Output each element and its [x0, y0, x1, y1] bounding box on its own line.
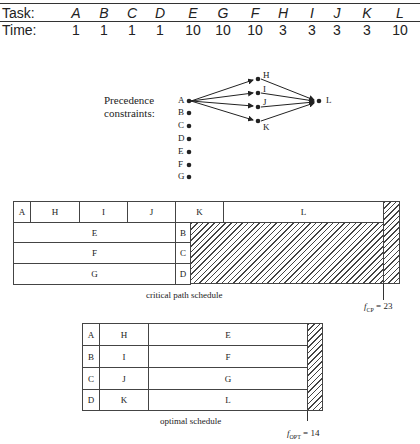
cp-task-h: H	[30, 201, 80, 223]
cp-task-a: A	[13, 201, 31, 223]
node-label-i: I	[263, 84, 266, 94]
idle-hatch-lower	[190, 222, 384, 284]
cp-task-f: F	[13, 242, 176, 264]
cp-task-j: J	[127, 201, 176, 223]
node-label-k: K	[263, 122, 270, 132]
node-label-d: D	[178, 133, 185, 143]
node-label-c: C	[178, 120, 184, 130]
opt-caption: optimal schedule	[160, 416, 221, 426]
cp-task-c: C	[175, 242, 191, 264]
node-label-b: B	[178, 107, 184, 117]
opt-task-c: C	[82, 367, 100, 390]
node-label-j: J	[263, 97, 267, 107]
cp-task-e: E	[13, 222, 176, 243]
opt-task-k: K	[99, 389, 149, 411]
cp-finish-label: fCP = 23	[364, 301, 392, 313]
cp-task-g: G	[13, 263, 176, 285]
opt-task-a: A	[82, 323, 100, 346]
opt-task-d: D	[82, 389, 100, 411]
opt-finish-value: = 14	[303, 428, 319, 438]
opt-task-f: F	[148, 345, 308, 368]
opt-task-e: E	[148, 323, 308, 346]
node-label-h: H	[263, 70, 270, 80]
cp-task-b: B	[175, 222, 191, 243]
node-label-l: L	[326, 95, 332, 105]
cp-finish-value: = 23	[376, 301, 392, 311]
opt-finish-sub: OPT	[290, 434, 301, 440]
cp-task-d: D	[175, 263, 191, 285]
node-label-a: A	[178, 95, 185, 105]
opt-idle-hatch	[307, 323, 323, 411]
cp-task-l: L	[223, 201, 384, 223]
node-label-e: E	[178, 146, 184, 156]
opt-task-l: L	[148, 389, 308, 411]
precedence-graph	[0, 0, 420, 210]
node-label-g: G	[178, 171, 185, 181]
cp-task-k: K	[175, 201, 224, 223]
cp-finish-tick	[383, 284, 384, 300]
cp-caption: critical path schedule	[146, 290, 222, 300]
opt-task-h: H	[99, 323, 149, 346]
opt-task-j: J	[99, 367, 149, 390]
opt-finish-tick	[307, 411, 308, 421]
cp-finish-sub: CP	[367, 307, 374, 313]
node-label-f: F	[178, 159, 183, 169]
opt-task-b: B	[82, 345, 100, 368]
opt-finish-label: fOPT = 14	[287, 428, 319, 440]
opt-task-i: I	[99, 345, 149, 368]
opt-task-g: G	[148, 367, 308, 390]
cp-task-i: I	[79, 201, 128, 223]
idle-hatch-right	[383, 201, 400, 284]
